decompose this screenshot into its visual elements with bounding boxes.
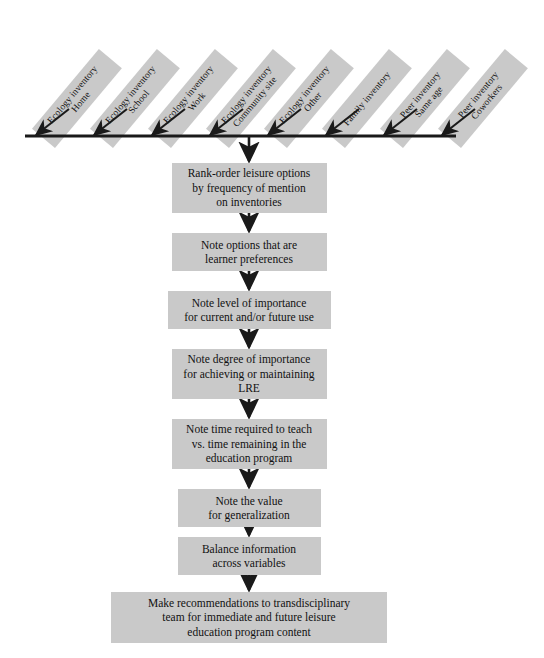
process-step-line: Note level of importance: [184, 296, 314, 311]
process-step-box: Balance informationacross variables: [178, 537, 321, 575]
process-step-line: team for immediate and future leisure: [148, 610, 350, 625]
process-step-box: Note the valuefor generalization: [178, 489, 321, 527]
process-step-line: Note the value: [208, 494, 289, 509]
process-step-box: Note options that arelearner preferences: [172, 233, 327, 271]
process-step-label: Note options that arelearner preferences: [201, 238, 297, 267]
process-step-label: Note the valuefor generalization: [208, 494, 289, 523]
process-step-label: Note degree of importancefor achieving o…: [183, 352, 314, 396]
process-step-label: Note time required to teachvs. time rema…: [186, 422, 312, 466]
process-step-box: Note time required to teachvs. time rema…: [172, 419, 327, 469]
process-step-line: Note options that are: [201, 238, 297, 253]
process-step-line: LRE: [183, 381, 314, 396]
process-step-label: Make recommendations to transdisciplinar…: [148, 596, 350, 640]
process-step-label: Note level of importancefor current and/…: [184, 296, 314, 325]
process-step-line: education program content: [148, 625, 350, 640]
process-step-box: Note degree of importancefor achieving o…: [172, 349, 327, 399]
process-step-box: Make recommendations to transdisciplinar…: [111, 592, 387, 643]
inventory-sources-group: Ecology inventoryHomeEcology inventorySc…: [0, 0, 544, 160]
process-step-line: Make recommendations to transdisciplinar…: [148, 596, 350, 611]
process-step-line: across variables: [202, 556, 296, 571]
process-step-line: Note time required to teach: [186, 422, 312, 437]
process-step-line: Note degree of importance: [183, 352, 314, 367]
process-step-line: education program: [186, 451, 312, 466]
process-step-line: vs. time remaining in the: [186, 437, 312, 452]
process-step-line: Balance information: [202, 542, 296, 557]
process-step-line: learner preferences: [201, 252, 297, 267]
process-step-line: for achieving or maintaining: [183, 367, 314, 382]
process-step-label: Balance informationacross variables: [202, 542, 296, 571]
process-step-line: on inventories: [188, 195, 311, 210]
flowchart-canvas: Ecology inventoryHomeEcology inventorySc…: [0, 0, 544, 658]
process-step-line: by frequency of mention: [188, 181, 311, 196]
process-step-line: for current and/or future use: [184, 310, 314, 325]
process-step-line: for generalization: [208, 508, 289, 523]
inventory-label-line1: Family inventory: [341, 69, 393, 128]
process-step-box: Rank-order leisure optionsby frequency o…: [172, 163, 327, 213]
process-step-line: Rank-order leisure options: [188, 166, 311, 181]
process-step-label: Rank-order leisure optionsby frequency o…: [188, 166, 311, 210]
process-step-box: Note level of importancefor current and/…: [168, 291, 331, 329]
